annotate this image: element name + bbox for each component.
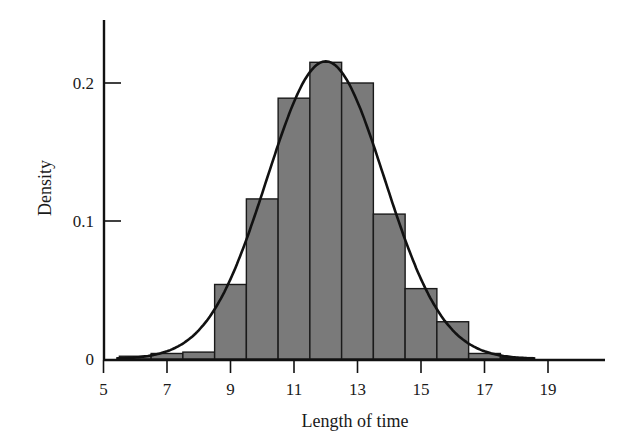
x-tick-label: 5 xyxy=(99,380,108,399)
histogram-bar xyxy=(215,284,247,359)
x-tick-label: 7 xyxy=(163,380,172,399)
x-tick-label: 15 xyxy=(413,380,430,399)
histogram-bar xyxy=(278,98,310,359)
x-tick-label: 11 xyxy=(286,380,302,399)
histogram-bar xyxy=(373,214,405,359)
y-tick-label: 0.1 xyxy=(73,212,94,231)
x-tick-label: 9 xyxy=(226,380,235,399)
y-tick-label: 0.2 xyxy=(73,74,94,93)
x-axis-label: Length of time xyxy=(302,411,409,431)
x-tick-label: 17 xyxy=(476,380,494,399)
x-tick-label: 13 xyxy=(349,380,366,399)
histogram-bars xyxy=(119,62,532,359)
y-tick-label: 0 xyxy=(86,350,95,369)
histogram-bar xyxy=(342,83,374,359)
y-axis-label: Density xyxy=(35,160,55,216)
y-axis-ticks: 00.10.2 xyxy=(73,74,121,369)
histogram-bar xyxy=(310,62,342,359)
x-axis-ticks: 5791113151719 xyxy=(99,360,556,399)
x-tick-label: 19 xyxy=(540,380,557,399)
histogram-chart: 00.10.2 5791113151719 Length of time Den… xyxy=(0,0,635,447)
histogram-bar xyxy=(183,352,215,359)
